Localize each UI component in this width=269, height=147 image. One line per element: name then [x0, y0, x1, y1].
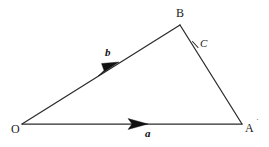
prime-mark-icon: ˙ [256, 118, 259, 127]
vector-label-a: a [145, 128, 151, 139]
vertex-label-a: A [245, 122, 254, 134]
point-label-c: C [200, 38, 207, 49]
vector-label-b: b [105, 47, 111, 58]
vector-diagram-canvas [0, 0, 269, 147]
vertex-label-o: O [11, 123, 20, 135]
vector-triangle-figure: O B A ˙ C b a [0, 0, 269, 147]
vertex-label-b: B [176, 7, 184, 19]
